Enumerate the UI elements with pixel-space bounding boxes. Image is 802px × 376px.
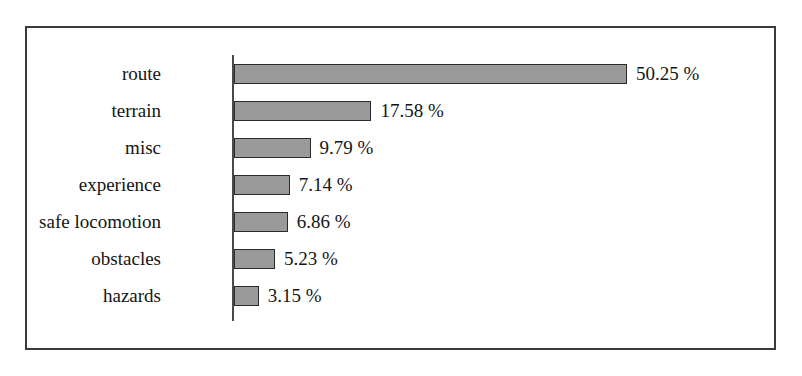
bar-row: obstacles 5.23 % [27,240,774,277]
category-label-hazards: hazards [0,286,170,305]
bar-value-safe-locomotion: 6.86 % [297,212,351,231]
bar-wrapper: 9.79 % [234,129,373,166]
bar-route [234,64,627,84]
bar-value-obstacles: 5.23 % [284,249,338,268]
bar-row: safe locomotion 6.86 % [27,203,774,240]
bar-wrapper: 17.58 % [234,92,444,129]
bar-series: route 50.25 % terrain 17.58 % misc [27,55,774,314]
bar-value-misc: 9.79 % [320,138,374,157]
bar-row: route 50.25 % [27,55,774,92]
bar-row: experience 7.14 % [27,166,774,203]
bar-wrapper: 5.23 % [234,240,338,277]
category-label-misc: misc [0,138,170,157]
bar-wrapper: 6.86 % [234,203,350,240]
bar-chart-figure: route 50.25 % terrain 17.58 % misc [0,0,802,376]
bar-obstacles [234,249,275,269]
bar-safe-locomotion [234,212,288,232]
bar-wrapper: 7.14 % [234,166,353,203]
bar-experience [234,175,290,195]
bar-wrapper: 3.15 % [234,277,321,314]
bar-row: terrain 17.58 % [27,92,774,129]
bar-value-route: 50.25 % [636,64,699,83]
bar-misc [234,138,311,158]
bar-row: hazards 3.15 % [27,277,774,314]
bar-row: misc 9.79 % [27,129,774,166]
bar-value-experience: 7.14 % [299,175,353,194]
chart-frame: route 50.25 % terrain 17.58 % misc [25,26,776,350]
bar-value-hazards: 3.15 % [268,286,322,305]
bar-wrapper: 50.25 % [234,55,699,92]
bar-value-terrain: 17.58 % [380,101,443,120]
category-label-terrain: terrain [0,101,170,120]
plot-area: route 50.25 % terrain 17.58 % misc [27,28,774,348]
bar-hazards [234,286,259,306]
category-label-safe-locomotion: safe locomotion [0,212,170,231]
category-label-obstacles: obstacles [0,249,170,268]
bar-terrain [234,101,371,121]
category-label-route: route [0,64,170,83]
category-label-experience: experience [0,175,170,194]
